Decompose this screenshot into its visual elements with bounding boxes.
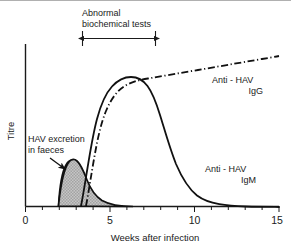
anti-hav-igm-curve	[81, 77, 279, 207]
igg-label-line1: Anti - HAV	[212, 75, 253, 85]
x-axis-title: Weeks after infection	[111, 232, 200, 243]
igm-series-label: Anti - HAV IgM	[205, 164, 256, 185]
hav-excretion-label-line1: HAV excretion	[28, 134, 85, 144]
hav-excretion-pointer-arrow	[50, 158, 65, 169]
igg-label-line2: IgG	[248, 86, 263, 96]
igm-label-line1: Anti - HAV	[205, 164, 246, 174]
x-tick-label-10: 10	[189, 214, 201, 226]
hav-excretion-area	[59, 159, 134, 206]
hepatitis-a-serology-figure: Abnormal biochemical tests	[0, 0, 291, 246]
igm-label-line2: IgM	[241, 175, 256, 185]
igg-series-label: Anti - HAV IgG	[212, 75, 263, 96]
abnormal-tests-label-line2: biochemical tests	[82, 19, 152, 29]
abnormal-tests-label-line1: Abnormal	[82, 8, 121, 18]
abnormal-tests-annotation: Abnormal biochemical tests	[82, 8, 156, 46]
x-tick-label-0: 0	[23, 214, 29, 226]
hav-excretion-label-line2: in faeces	[28, 145, 65, 155]
x-tick-label-5: 5	[107, 214, 113, 226]
x-tick-label-15: 15	[271, 214, 283, 226]
chart-canvas: Abnormal biochemical tests	[0, 1, 291, 246]
y-axis-title: Titre	[5, 122, 16, 141]
hav-excretion-tail	[59, 159, 134, 206]
